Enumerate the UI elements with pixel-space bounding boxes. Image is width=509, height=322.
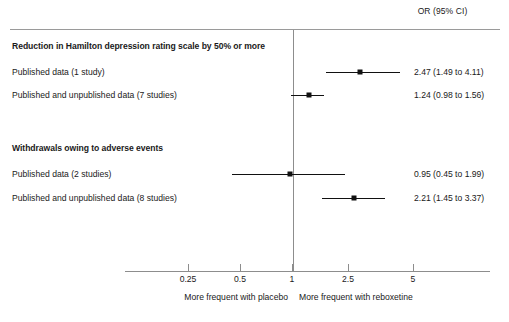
x-axis-tick-3 [348,264,349,271]
ci-whisker-published-1-study [326,72,400,73]
x-axis-tick-1 [240,264,241,271]
axis-caption-reboxetine: More frequent with reboxetine [299,292,413,302]
row-label-published-1-study: Published data (1 study) [12,67,105,78]
or-column-header: OR (95% CI) [380,6,505,16]
or-value-published-1-study: 2.47 (1.49 to 4.11) [414,67,484,78]
x-axis-label-2: 1 [290,274,295,284]
point-estimate-published-2-studies [288,172,293,177]
point-estimate-published-unpublished-8-studies [352,196,357,201]
null-reference-line [293,30,294,271]
or-value-published-unpublished-7-studies: 1.24 (0.98 to 1.56) [414,90,484,101]
x-axis-tick-2 [292,264,293,271]
x-axis-label-4: 5 [411,274,416,284]
point-estimate-published-unpublished-7-studies [307,93,312,98]
row-label-published-2-studies: Published data (2 studies) [12,169,111,180]
x-axis-line [125,271,490,272]
header-divider [10,29,500,30]
group-heading-hamilton: Reduction in Hamilton depression rating … [12,41,265,52]
point-estimate-published-1-study [358,70,363,75]
x-axis-tick-4 [413,264,414,271]
axis-caption-placebo: More frequent with placebo [184,292,288,302]
or-value-published-2-studies: 0.95 (0.45 to 1.99) [414,169,484,180]
x-axis-label-1: 0.5 [234,274,246,284]
x-axis-tick-0 [188,264,189,271]
row-label-published-unpublished-7-studies: Published and unpublished data (7 studie… [12,90,177,101]
row-label-published-unpublished-8-studies: Published and unpublished data (8 studie… [12,193,177,204]
forest-plot: OR (95% CI) Reduction in Hamilton depres… [0,0,509,322]
group-heading-withdrawals: Withdrawals owing to adverse events [12,143,163,154]
x-axis-label-3: 2.5 [342,274,354,284]
or-value-published-unpublished-8-studies: 2.21 (1.45 to 3.37) [414,193,484,204]
x-axis-label-0: 0.25 [180,274,197,284]
